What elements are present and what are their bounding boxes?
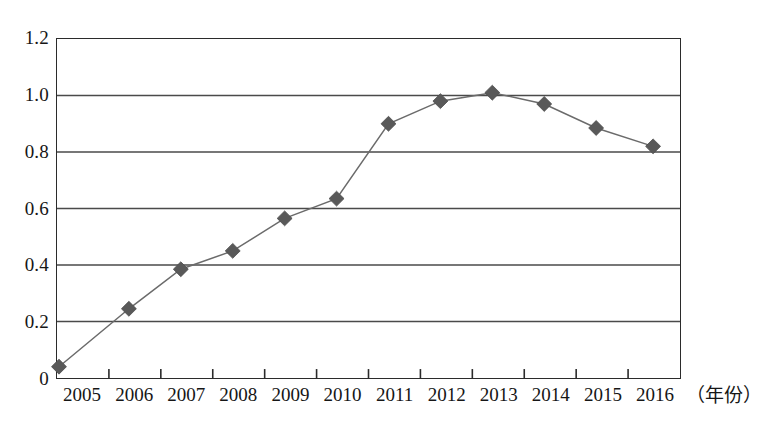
y-tick-label: 0.4 <box>25 255 49 274</box>
x-tick-label: 2007 <box>167 384 205 406</box>
x-tick-label: 2013 <box>480 384 518 406</box>
data-point-marker <box>646 139 661 154</box>
x-axis-tick-labels: 2005200620072008200920102011201220132014… <box>56 384 681 414</box>
x-tick-label: 2012 <box>428 384 466 406</box>
x-tick-label: 2014 <box>532 384 570 406</box>
data-point-marker <box>589 121 604 136</box>
x-tick-label: 2005 <box>63 384 101 406</box>
x-tick-label: 2011 <box>376 384 413 406</box>
y-tick-label: 0.8 <box>25 142 49 161</box>
x-tick-label: 2010 <box>323 384 361 406</box>
y-tick-label: 1.0 <box>25 85 49 104</box>
y-tick-label: 0.2 <box>25 312 49 331</box>
x-tick-label: 2016 <box>636 384 674 406</box>
x-tick-label: 2006 <box>115 384 153 406</box>
data-point-marker <box>225 243 240 258</box>
y-tick-label: 1.2 <box>25 28 49 47</box>
data-series <box>57 39 680 378</box>
series-line <box>59 93 653 367</box>
x-axis-title: （年份） <box>686 384 762 406</box>
data-point-marker <box>329 191 344 206</box>
data-point-marker <box>173 262 188 277</box>
data-point-marker <box>433 94 448 109</box>
x-tick-label: 2008 <box>219 384 257 406</box>
data-point-marker <box>485 85 500 100</box>
data-point-marker <box>277 211 292 226</box>
y-tick-label: 0 <box>39 369 49 388</box>
data-point-marker <box>537 97 552 112</box>
y-tick-label: 0.6 <box>25 199 49 218</box>
data-point-marker <box>381 116 396 131</box>
y-axis-tick-labels: 00.20.40.60.81.01.2 <box>0 0 49 431</box>
line-chart: 00.20.40.60.81.01.2 20052006200720082009… <box>0 0 769 431</box>
x-tick-label: 2015 <box>584 384 622 406</box>
plot-area <box>56 38 681 379</box>
x-tick-label: 2009 <box>271 384 309 406</box>
